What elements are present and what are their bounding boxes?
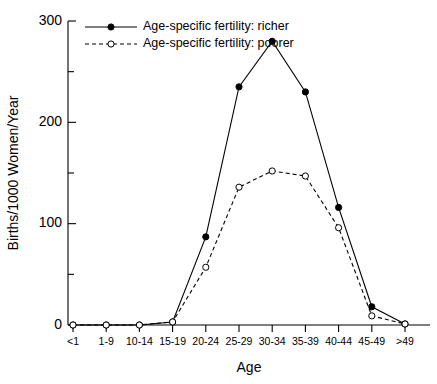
legend-label-richer: Age-specific fertility: richer	[143, 19, 289, 33]
data-point-poorer	[170, 319, 176, 325]
data-point-richer	[302, 89, 308, 95]
x-tick-label: 20-24	[192, 335, 219, 347]
data-point-poorer	[136, 322, 142, 328]
data-point-poorer	[369, 313, 375, 319]
legend-swatch-marker-richer	[108, 24, 114, 30]
x-tick-label: >49	[396, 335, 414, 347]
data-point-poorer	[103, 322, 109, 328]
y-tick-label: 0	[54, 316, 62, 332]
data-point-poorer	[302, 173, 308, 179]
chart-canvas: 0100200300 <11-910-1415-1920-2425-2930-3…	[0, 0, 437, 384]
x-axis-tick-labels: <11-910-1415-1920-2425-2930-3435-3940-44…	[67, 335, 414, 347]
legend-label-poorer: Age-specific fertility: poorer	[143, 36, 294, 50]
data-point-richer	[203, 234, 209, 240]
series-line-poorer	[73, 171, 405, 325]
data-point-richer	[236, 84, 242, 90]
x-tick-label: 35-39	[292, 335, 319, 347]
x-axis-ticks	[73, 325, 405, 332]
data-point-poorer	[402, 321, 408, 327]
x-tick-label: 1-9	[99, 335, 114, 347]
legend-swatch-marker-poorer	[108, 41, 114, 47]
data-point-richer	[369, 304, 375, 310]
data-point-poorer	[203, 264, 209, 270]
data-point-poorer	[70, 322, 76, 328]
fertility-by-age-chart: 0100200300 <11-910-1415-1920-2425-2930-3…	[0, 0, 437, 384]
y-axis-title: Births/1000 Women/Year	[5, 95, 21, 250]
data-point-poorer	[236, 184, 242, 190]
x-tick-label: 10-14	[126, 335, 153, 347]
x-tick-label: <1	[67, 335, 79, 347]
y-axis-tick-labels: 0100200300	[39, 12, 63, 332]
data-point-richer	[336, 204, 342, 210]
x-tick-label: 40-44	[325, 335, 352, 347]
chart-legend: Age-specific fertility: richerAge-specif…	[85, 19, 294, 50]
data-point-poorer	[269, 168, 275, 174]
y-axis-minor-ticks	[68, 72, 74, 275]
x-tick-label: 15-19	[159, 335, 186, 347]
data-series-layer	[70, 38, 408, 328]
data-point-poorer	[336, 225, 342, 231]
y-tick-label: 100	[39, 214, 63, 230]
x-tick-label: 45-49	[358, 335, 385, 347]
y-tick-label: 300	[39, 12, 63, 28]
x-axis-title: Age	[237, 359, 262, 375]
x-tick-label: 30-34	[259, 335, 286, 347]
y-tick-label: 200	[39, 113, 63, 129]
x-tick-label: 25-29	[226, 335, 253, 347]
